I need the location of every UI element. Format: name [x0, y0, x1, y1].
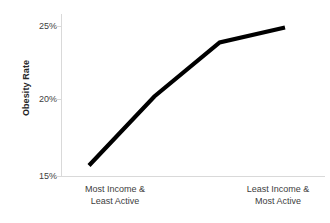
x-axis-label-left-line2: Least Active: [55, 195, 175, 207]
x-axis-label-left: Most Income & Least Active: [55, 183, 175, 207]
x-axis-label-right-line2: Most Active: [228, 195, 328, 207]
obesity-rate-line-chart: Obesity Rate 25% 20% 15% Most Income & L…: [0, 0, 330, 223]
x-axis-label-left-line1: Most Income &: [85, 184, 145, 194]
series-line-obesity-rate: [89, 28, 285, 166]
x-axis-label-right: Least Income & Most Active: [228, 183, 328, 207]
x-axis-label-right-line1: Least Income &: [247, 184, 310, 194]
